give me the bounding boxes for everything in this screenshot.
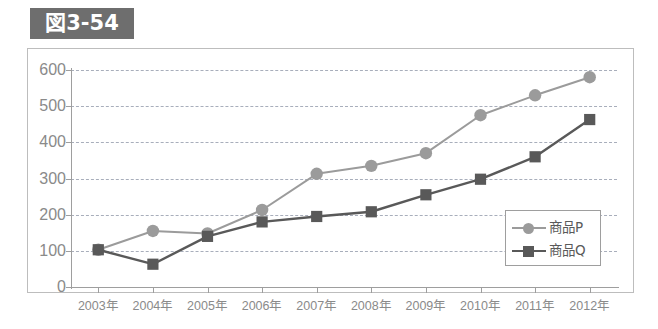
y-tick-label: 400: [24, 134, 66, 150]
x-tick-mark: [262, 287, 263, 293]
x-tick-mark: [98, 287, 99, 293]
gridline: [71, 179, 617, 180]
chart-legend: 商品P 商品Q: [505, 210, 601, 266]
y-tick-mark: [66, 70, 72, 71]
y-tick-mark: [66, 106, 72, 107]
legend-label-series-p: 商品P: [546, 221, 583, 235]
x-tick-mark: [153, 287, 154, 293]
y-tick-label: 200: [24, 207, 66, 223]
y-tick-mark: [66, 287, 72, 288]
y-tick-label: 500: [24, 98, 66, 114]
y-tick-label: 0: [24, 279, 66, 295]
x-tick-mark: [481, 287, 482, 293]
y-axis-tick-labels: 0100200300400500600: [20, 0, 66, 329]
figure-root: 図3-54 0100200300400500600 2003年2004年2005…: [0, 0, 658, 329]
y-tick-mark: [66, 251, 72, 252]
legend-label-series-q: 商品Q: [546, 244, 586, 258]
y-tick-label: 600: [24, 62, 66, 78]
y-tick-label: 300: [24, 171, 66, 187]
legend-swatch-circle-icon: [512, 221, 546, 235]
gridline: [71, 106, 617, 107]
legend-item-series-q: 商品Q: [512, 239, 594, 262]
x-tick-mark: [371, 287, 372, 293]
y-tick-label: 100: [24, 243, 66, 259]
x-tick-mark: [426, 287, 427, 293]
x-tick-label: 2012年: [555, 300, 625, 313]
legend-item-series-p: 商品P: [512, 216, 594, 239]
gridline: [71, 70, 617, 71]
y-tick-mark: [66, 215, 72, 216]
legend-swatch-square-icon: [512, 244, 546, 258]
gridline: [71, 142, 617, 143]
x-tick-mark: [208, 287, 209, 293]
x-tick-mark: [317, 287, 318, 293]
x-tick-mark: [590, 287, 591, 293]
y-tick-mark: [66, 142, 72, 143]
y-tick-mark: [66, 179, 72, 180]
x-tick-mark: [535, 287, 536, 293]
